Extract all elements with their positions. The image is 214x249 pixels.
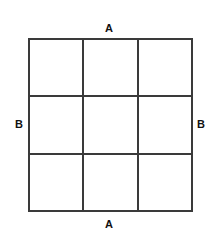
- label-bottom-a: A: [2, 219, 214, 230]
- grid-cell-r1c1[interactable]: [30, 40, 84, 97]
- grid-cell-r1c3[interactable]: [139, 40, 193, 97]
- grid-cell-r1c2[interactable]: [84, 40, 138, 97]
- grid-cell-r2c2[interactable]: [84, 97, 138, 154]
- figure-root: A B B A: [0, 0, 214, 249]
- grid-cell-r3c2[interactable]: [84, 155, 138, 212]
- label-left-b: B: [12, 119, 26, 130]
- grid-cell-r3c1[interactable]: [30, 155, 84, 212]
- label-top-a: A: [2, 23, 214, 34]
- grid-3x3: [28, 38, 193, 212]
- grid-cell-r3c3[interactable]: [139, 155, 193, 212]
- grid-cell-r2c1[interactable]: [30, 97, 84, 154]
- grid-cell-r2c3[interactable]: [139, 97, 193, 154]
- label-right-b: B: [194, 119, 208, 130]
